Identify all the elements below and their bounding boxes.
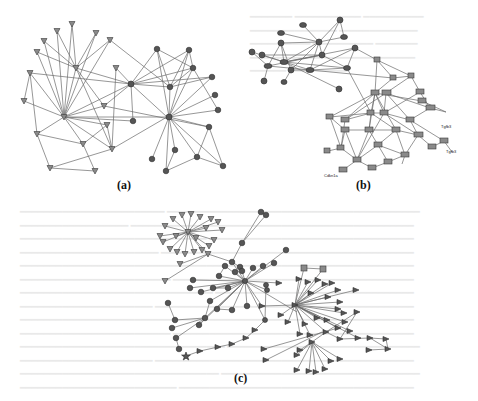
network-a — [21, 22, 226, 175]
network-a-edges — [24, 24, 223, 171]
node-label: Cdkn1a — [324, 173, 339, 178]
network-b: Tgfb3 Tgfb3 Cdkn1a — [249, 17, 457, 178]
network-c-nodes — [157, 209, 391, 374]
caption-b: (b) — [356, 178, 371, 193]
network-a-nodes — [21, 22, 226, 175]
network-c — [157, 209, 391, 374]
node-label: Tgfb3 — [446, 149, 457, 154]
star-node-icon — [182, 352, 191, 360]
node-label: Tgfb3 — [441, 124, 452, 129]
caption-c: (c) — [234, 371, 247, 386]
caption-a: (a) — [117, 178, 131, 193]
network-figure: Tgfb3 Tgfb3 Cdkn1a — [0, 0, 478, 401]
network-b-nodes: Tgfb3 Tgfb3 Cdkn1a — [249, 17, 457, 178]
